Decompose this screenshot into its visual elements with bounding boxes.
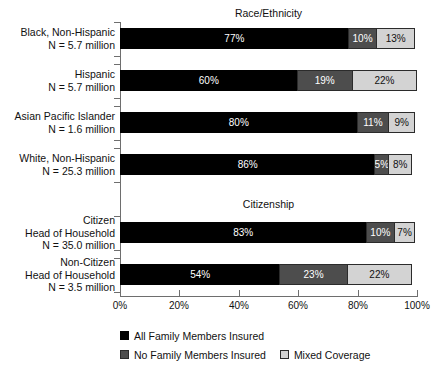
bar-segment-all: 86% (120, 154, 375, 175)
row-label-line: N = 25.3 million (0, 165, 115, 178)
legend-swatch-icon-all (120, 331, 129, 340)
legend-item-all-family-members-insured: All Family Members Insured (120, 330, 264, 342)
row-label-line: N = 5.7 million (0, 81, 115, 94)
bar-segment-all: 60% (120, 70, 298, 91)
legend-row: All Family Members Insured (120, 326, 430, 345)
row-label-line: Citizen (0, 214, 115, 227)
row-label: Non-CitizenHead of HouseholdN = 3.5 mill… (0, 256, 115, 294)
bar-segment-all: 83% (120, 222, 367, 243)
x-axis-tick-label: 100% (404, 300, 430, 311)
bar-segment-mixed: 22% (347, 264, 412, 285)
row-label-line: N = 35.0 million (0, 239, 115, 252)
row-label: Black, Non-HispanicN = 5.7 million (0, 26, 115, 51)
chart-legend: All Family Members Insured No Family Mem… (120, 326, 430, 364)
x-axis-tick (120, 290, 121, 297)
plot-area: 0%20%40%60%80%100% Black, Non-HispanicN … (0, 0, 438, 310)
bar-segment-none: 23% (279, 264, 347, 285)
bar-segment-all: 80% (120, 112, 358, 133)
legend-label-mixed: Mixed Coverage (294, 349, 370, 361)
stacked-bar: 80%11%9% (120, 112, 417, 133)
legend-swatch-icon-mixed (280, 350, 289, 359)
bar-segment-all: 77% (120, 28, 349, 49)
y-axis-tick (114, 56, 120, 57)
row-label-line: Hispanic (0, 68, 115, 81)
bar-segment-value-label: 19% (315, 76, 335, 86)
bar-segment-mixed: 13% (376, 28, 415, 49)
y-axis-tick (114, 22, 120, 23)
y-axis-tick (114, 106, 120, 107)
bar-segment-none: 19% (297, 70, 353, 91)
row-label: CitizenHead of HouseholdN = 35.0 million (0, 214, 115, 252)
bar-segment-mixed: 8% (388, 154, 412, 175)
bar-segment-value-label: 60% (199, 76, 219, 86)
stacked-bar: 83%10%7% (120, 222, 417, 243)
legend-item-mixed-coverage: Mixed Coverage (280, 349, 370, 361)
x-axis-tick-label: 80% (348, 300, 368, 311)
x-axis-tick-label: 20% (169, 300, 189, 311)
chart-container: Race/Ethnicity Citizenship 0%20%40%60%80… (0, 0, 438, 381)
stacked-bar: 60%19%22% (120, 70, 417, 91)
x-axis-tick-label: 40% (229, 300, 249, 311)
bar-segment-value-label: 10% (370, 228, 390, 238)
row-label-line: N = 1.6 million (0, 123, 115, 136)
bar-segment-value-label: 22% (369, 270, 389, 280)
stacked-bar: 86%5%8% (120, 154, 417, 175)
bar-segment-value-label: 7% (397, 228, 411, 238)
bar-segment-none: 5% (374, 154, 389, 175)
x-axis-tick (239, 290, 240, 297)
x-axis-line (120, 296, 417, 297)
x-axis-tick (179, 290, 180, 297)
bar-segment-value-label: 83% (233, 228, 253, 238)
bar-segment-value-label: 10% (353, 34, 373, 44)
legend-label-none: No Family Members Insured (134, 349, 266, 361)
legend-row: No Family Members Insured Mixed Coverage (120, 345, 430, 364)
y-axis-tick (114, 64, 120, 65)
stacked-bar: 77%10%13% (120, 28, 417, 49)
stacked-bar: 54%23%22% (120, 264, 417, 285)
bar-segment-mixed: 22% (352, 70, 417, 91)
y-axis-tick (114, 98, 120, 99)
bar-segment-value-label: 77% (224, 34, 244, 44)
row-label-line: N = 3.5 million (0, 281, 115, 294)
bar-segment-value-label: 23% (304, 270, 324, 280)
row-label-line: White, Non-Hispanic (0, 152, 115, 165)
row-label-line: Non-Citizen (0, 256, 115, 269)
bar-segment-all: 54% (120, 264, 280, 285)
x-axis-tick-label: 0% (113, 300, 127, 311)
bar-segment-value-label: 5% (375, 160, 389, 170)
bar-segment-none: 10% (366, 222, 396, 243)
bar-segment-value-label: 22% (374, 76, 394, 86)
bar-segment-value-label: 80% (229, 118, 249, 128)
bar-segment-none: 10% (348, 28, 378, 49)
x-axis-tick-label: 60% (288, 300, 308, 311)
bar-segment-value-label: 54% (190, 270, 210, 280)
x-axis-tick (298, 290, 299, 297)
row-label: HispanicN = 5.7 million (0, 68, 115, 93)
bar-segment-mixed: 9% (388, 112, 415, 133)
row-label-line: Head of Household (0, 227, 115, 240)
row-label-line: N = 5.7 million (0, 39, 115, 52)
bar-segment-value-label: 11% (363, 118, 382, 128)
row-label-line: Black, Non-Hispanic (0, 26, 115, 39)
y-axis-tick (114, 182, 120, 183)
legend-item-no-family-members-insured: No Family Members Insured (120, 349, 266, 361)
bar-segment-value-label: 13% (386, 34, 406, 44)
row-label-line: Head of Household (0, 269, 115, 282)
y-axis-tick (114, 148, 120, 149)
row-label: Asian Pacific IslanderN = 1.6 million (0, 110, 115, 135)
legend-swatch-icon-none (120, 350, 129, 359)
bar-segment-value-label: 8% (393, 160, 407, 170)
bar-segment-mixed: 7% (394, 222, 415, 243)
legend-label-all: All Family Members Insured (134, 330, 264, 342)
bar-segment-none: 11% (357, 112, 390, 133)
row-label-line: Asian Pacific Islander (0, 110, 115, 123)
bar-segment-value-label: 9% (394, 118, 408, 128)
y-axis-tick (114, 140, 120, 141)
row-label: White, Non-HispanicN = 25.3 million (0, 152, 115, 177)
bar-segment-value-label: 86% (238, 160, 258, 170)
x-axis-tick (358, 290, 359, 297)
x-axis-tick (417, 290, 418, 297)
